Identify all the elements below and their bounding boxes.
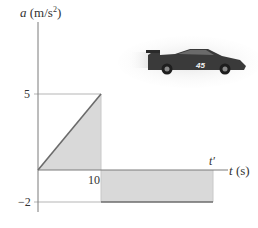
y-tick-5: 5 [24,88,30,100]
y-axis-label: a (m/s2) [20,6,61,19]
t-prime-label: t′ [209,155,215,167]
y-tick-minus2: −2 [18,196,31,208]
x-tick-10: 10 [88,174,100,186]
acceleration-graph: 45 [0,0,258,228]
area-negative [101,170,213,202]
car-number: 45 [195,61,205,70]
race-car-image: 45 [118,36,258,88]
x-axis-label: t (s) [229,164,250,177]
